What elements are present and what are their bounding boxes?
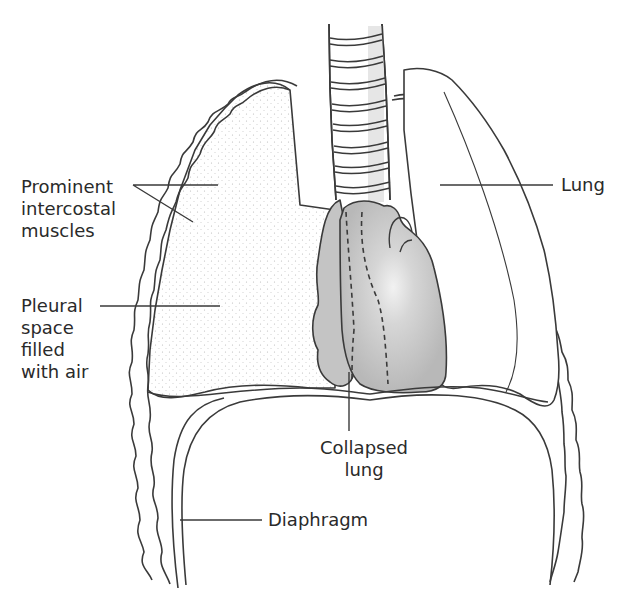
- pleural-space-region: [148, 83, 335, 398]
- label-line: Pleural: [21, 295, 88, 317]
- label-collapsed-lung: Collapsed lung: [298, 437, 430, 481]
- label-line: Lung: [561, 174, 605, 196]
- label-line: filled: [21, 339, 88, 361]
- label-line: intercostal: [21, 198, 116, 220]
- label-diaphragm: Diaphragm: [268, 509, 368, 531]
- diaphragm-outer: [172, 398, 224, 588]
- label-line: muscles: [21, 220, 116, 242]
- label-line: Diaphragm: [268, 509, 368, 531]
- label-line: Prominent: [21, 176, 116, 198]
- diaphragm: [182, 395, 554, 585]
- label-line: with air: [21, 361, 88, 383]
- label-line: Collapsed: [298, 437, 430, 459]
- label-line: lung: [298, 459, 430, 481]
- label-line: space: [21, 317, 88, 339]
- label-lung: Lung: [561, 174, 605, 196]
- label-intercostal-muscles: Prominent intercostal muscles: [21, 176, 116, 242]
- label-pleural-space: Pleural space filled with air: [21, 295, 88, 383]
- trachea-shading: [368, 26, 384, 202]
